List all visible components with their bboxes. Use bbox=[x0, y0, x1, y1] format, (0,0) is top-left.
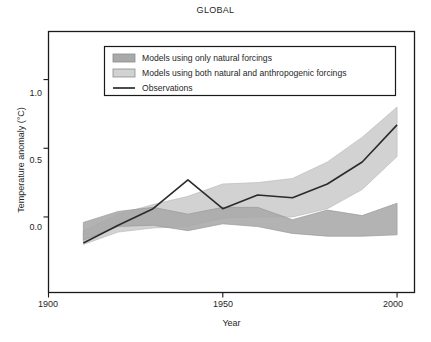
climate-attribution-chart: GLOBAL Temperature anomaly (°C) 1.0 0.5 … bbox=[0, 0, 431, 342]
legend-swatch-anthropogenic bbox=[113, 69, 135, 77]
legend-swatch-natural bbox=[113, 54, 135, 62]
chart-legend: Models using only natural forcings Model… bbox=[105, 47, 396, 96]
plot-area: Models using only natural forcings Model… bbox=[0, 0, 431, 342]
legend-label-anthropogenic: Models using both natural and anthropoge… bbox=[142, 68, 346, 78]
legend-label-observations: Observations bbox=[142, 83, 193, 93]
natural-forcings-band bbox=[83, 203, 397, 240]
legend-label-natural: Models using only natural forcings bbox=[142, 53, 272, 63]
